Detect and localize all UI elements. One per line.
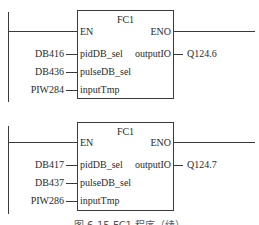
input-wire: [66, 201, 77, 202]
block-title: FC1: [77, 14, 174, 26]
figure-caption: 图 6-15 FC1 程序（续）: [0, 217, 259, 225]
output-value: Q124.7: [187, 159, 217, 171]
eno-pin: ENO: [120, 137, 171, 149]
input-value: DB417: [0, 159, 64, 171]
output-wire: [174, 54, 183, 55]
input-param: pidDB_sel: [80, 159, 123, 171]
eno-pin: ENO: [120, 26, 171, 38]
input-wire: [66, 90, 77, 91]
eno-wire: [174, 31, 255, 32]
input-value: DB437: [0, 177, 64, 189]
input-value: DB436: [0, 66, 64, 78]
input-wire: [66, 183, 77, 184]
en-wire: [8, 31, 77, 32]
input-wire: [66, 54, 77, 55]
input-value: DB416: [0, 48, 64, 60]
input-param: inputTmp: [80, 84, 119, 96]
output-param: outputIO: [120, 159, 171, 171]
output-value: Q124.6: [187, 48, 217, 60]
input-param: inputTmp: [80, 195, 119, 207]
en-wire: [8, 142, 77, 143]
en-pin: EN: [80, 137, 93, 149]
en-pin: EN: [80, 26, 93, 38]
input-param: pulseDB_sel: [80, 177, 131, 189]
eno-wire: [174, 142, 255, 143]
input-wire: [66, 72, 77, 73]
input-value: PIW286: [0, 195, 64, 207]
input-param: pidDB_sel: [80, 48, 123, 60]
input-param: pulseDB_sel: [80, 66, 131, 78]
input-value: PIW284: [0, 84, 64, 96]
output-param: outputIO: [120, 48, 171, 60]
output-wire: [174, 165, 183, 166]
input-wire: [66, 165, 77, 166]
